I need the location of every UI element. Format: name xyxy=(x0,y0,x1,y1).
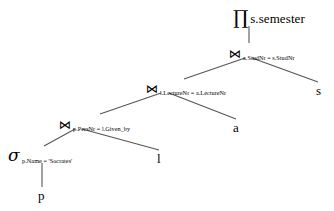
projection-argument: s.semester xyxy=(248,11,305,26)
edge-join-stud-to-join-lecture xyxy=(184,58,245,79)
join-icon: ⋈ xyxy=(229,48,241,60)
node-join-pers: ⋈p.PersNr = l.Given_by xyxy=(59,116,130,132)
join-lecture-argument: l.LectureNr = a.LectureNr xyxy=(158,89,227,96)
edge-join-lecture-to-join-pers xyxy=(100,93,161,114)
edge-join-pers-to-leaf-l xyxy=(82,129,159,150)
join-icon: ⋈ xyxy=(59,119,71,131)
leaf-relation-l: l xyxy=(157,152,161,165)
join-icon: ⋈ xyxy=(146,83,158,95)
node-selection: σp.Name = 'Socrates' xyxy=(8,147,72,164)
selection-argument: p.Name = 'Socrates' xyxy=(20,157,73,164)
edge-join-stud-to-leaf-s xyxy=(252,58,318,82)
leaf-relation-a: a xyxy=(233,121,239,134)
selection-icon: σ xyxy=(8,147,20,164)
join-stud-argument: a.StudNr = s.StudNr xyxy=(241,54,295,61)
node-join-stud: ⋈a.StudNr = s.StudNr xyxy=(229,45,295,61)
projection-icon: ∏ xyxy=(233,8,248,27)
edge-join-lecture-to-leaf-a xyxy=(169,93,236,119)
leaf-relation-s: s xyxy=(316,84,321,97)
leaf-relation-p: p xyxy=(38,189,45,202)
join-pers-argument: p.PersNr = l.Given_by xyxy=(71,125,131,132)
node-projection: ∏s.semester xyxy=(233,7,305,26)
node-join-lecture: ⋈l.LectureNr = a.LectureNr xyxy=(146,80,226,96)
tree-edges xyxy=(0,0,334,211)
query-tree-diagram: ∏s.semester ⋈a.StudNr = s.StudNr ⋈l.Lect… xyxy=(0,0,334,211)
